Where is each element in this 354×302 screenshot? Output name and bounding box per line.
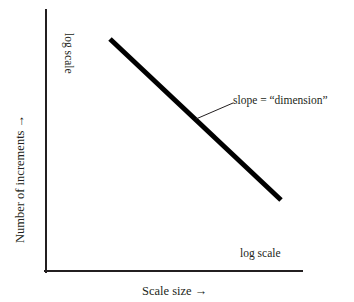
x-axis-title: Scale size → [142,285,207,298]
y-axis-title: Number of increments → [14,115,27,243]
y-axis-log-scale-label: log scale [62,33,74,74]
annotation-leader-line [196,103,233,119]
data-line-power-law [110,39,281,200]
annotation-slope-label: slope = “dimension” [233,95,328,107]
x-axis-log-scale-label: log scale [240,248,281,260]
plot-canvas [0,0,354,302]
figure-container: slope = “dimension” log scale log scale … [0,0,354,302]
